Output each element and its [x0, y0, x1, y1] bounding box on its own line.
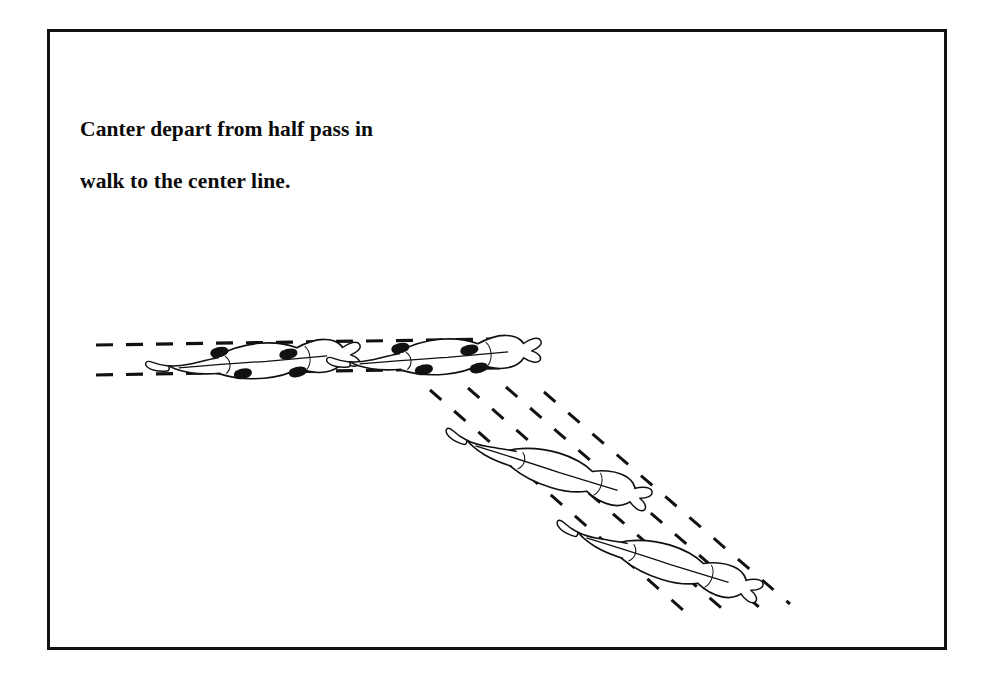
caption-line-1: Canter depart from half pass in [80, 116, 500, 142]
figure-caption: Canter depart from half pass in walk to … [80, 90, 500, 220]
figure-root: Canter depart from half pass in walk to … [0, 0, 992, 693]
caption-line-2: walk to the center line. [80, 168, 500, 194]
